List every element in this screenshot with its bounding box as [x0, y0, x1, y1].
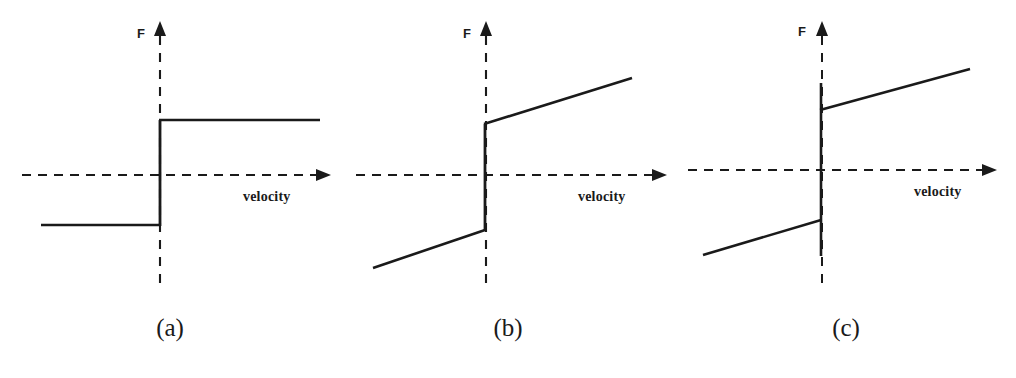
y-axis-arrowhead-icon — [154, 21, 166, 36]
positive-velocity-branch — [820, 69, 970, 110]
x-axis-label-velocity: velocity — [578, 190, 625, 204]
x-axis-label-velocity: velocity — [914, 185, 961, 199]
y-axis-label-f: F — [798, 25, 806, 38]
y-axis-label-f: F — [463, 27, 471, 40]
panel-a-plot — [0, 0, 340, 330]
panel-a: F velocity (a) — [0, 0, 340, 378]
panel-c: F velocity (c) — [676, 0, 1016, 378]
x-axis-arrowhead-icon — [982, 164, 997, 176]
panel-caption-a: (a) — [0, 315, 340, 340]
x-axis-label-velocity: velocity — [243, 190, 290, 204]
x-axis-arrowhead-icon — [652, 169, 667, 181]
panel-b-plot — [338, 0, 678, 330]
y-axis-arrowhead-icon — [816, 21, 828, 36]
panel-caption-b: (b) — [338, 315, 678, 340]
panel-caption-c: (c) — [676, 315, 1016, 340]
x-axis-arrowhead-icon — [316, 169, 331, 181]
positive-velocity-branch — [484, 78, 632, 124]
panel-b: F velocity (b) — [338, 0, 678, 378]
negative-velocity-branch — [373, 230, 485, 268]
panel-c-plot — [676, 0, 1016, 330]
negative-velocity-branch — [703, 220, 821, 255]
friction-model-figure: F velocity (a) F velocity (b) — [0, 0, 1016, 378]
y-axis-arrowhead-icon — [480, 21, 492, 36]
y-axis-label-f: F — [137, 27, 145, 40]
